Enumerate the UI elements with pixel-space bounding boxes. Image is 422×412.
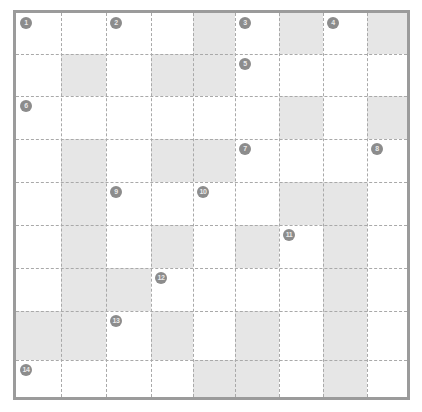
grid-cell[interactable] <box>235 311 279 360</box>
grid-cell[interactable] <box>16 225 61 268</box>
grid-cell[interactable] <box>193 54 235 96</box>
grid-cell[interactable] <box>367 268 407 311</box>
grid-cell[interactable] <box>279 268 323 311</box>
grid-cell[interactable] <box>61 139 106 182</box>
grid-marker-13[interactable]: 13 <box>110 315 122 327</box>
grid-cell[interactable] <box>16 54 61 96</box>
grid-marker-2[interactable]: 2 <box>110 17 122 29</box>
grid-cell[interactable] <box>151 96 193 139</box>
grid-marker-4[interactable]: 4 <box>327 17 339 29</box>
grid-marker-7[interactable]: 7 <box>239 143 251 155</box>
grid-marker-12[interactable]: 12 <box>155 272 167 284</box>
grid-cell[interactable] <box>193 13 235 54</box>
grid-cell[interactable] <box>279 360 323 397</box>
grid-cell[interactable] <box>106 360 151 397</box>
grid-cell[interactable] <box>61 360 106 397</box>
grid-cell[interactable] <box>279 13 323 54</box>
grid-cell[interactable] <box>367 360 407 397</box>
grid-cell[interactable] <box>193 139 235 182</box>
grid-cell[interactable] <box>235 225 279 268</box>
grid-cell[interactable] <box>61 54 106 96</box>
grid-cell[interactable] <box>193 96 235 139</box>
grid-marker-5[interactable]: 5 <box>239 58 251 70</box>
grid-cell[interactable] <box>61 182 106 225</box>
grid-cell[interactable] <box>323 268 367 311</box>
grid-cell[interactable] <box>151 54 193 96</box>
grid-cell[interactable] <box>193 360 235 397</box>
grid-marker-1[interactable]: 1 <box>20 17 32 29</box>
grid-marker-11[interactable]: 11 <box>283 229 295 241</box>
grid-cell[interactable] <box>193 311 235 360</box>
grid-cell[interactable] <box>151 182 193 225</box>
grid-cell[interactable] <box>323 139 367 182</box>
grid-marker-6[interactable]: 6 <box>20 100 32 112</box>
grid-cell[interactable] <box>279 96 323 139</box>
grid-cell[interactable] <box>151 13 193 54</box>
grid-marker-10[interactable]: 10 <box>197 186 209 198</box>
grid-cell[interactable] <box>106 96 151 139</box>
grid-cell[interactable] <box>235 96 279 139</box>
grid-cell[interactable] <box>323 182 367 225</box>
grid-cell[interactable] <box>151 311 193 360</box>
grid-cell[interactable] <box>106 139 151 182</box>
grid-cell[interactable] <box>16 139 61 182</box>
grid-cell[interactable] <box>106 54 151 96</box>
grid-cell[interactable] <box>16 268 61 311</box>
grid-cell[interactable] <box>106 268 151 311</box>
grid-cell[interactable] <box>235 268 279 311</box>
grid-cell[interactable] <box>367 96 407 139</box>
grid-marker-14[interactable]: 14 <box>20 364 32 376</box>
grid-cell[interactable] <box>279 182 323 225</box>
grid-cell[interactable] <box>279 54 323 96</box>
grid-inner: 1234567891011121314 <box>16 13 407 397</box>
grid-cell[interactable] <box>61 268 106 311</box>
grid-cell[interactable] <box>106 225 151 268</box>
grid-cell[interactable] <box>367 54 407 96</box>
grid-cell[interactable] <box>61 311 106 360</box>
grid-cell[interactable] <box>367 182 407 225</box>
grid-cell[interactable] <box>323 96 367 139</box>
grid-cell[interactable] <box>323 225 367 268</box>
grid-cell[interactable] <box>323 54 367 96</box>
grid-marker-9[interactable]: 9 <box>110 186 122 198</box>
grid-cell[interactable] <box>367 13 407 54</box>
grid-cell[interactable] <box>61 13 106 54</box>
grid-cell[interactable] <box>16 182 61 225</box>
grid-cell[interactable] <box>323 360 367 397</box>
grid-cell[interactable] <box>151 225 193 268</box>
grid-cell[interactable] <box>279 311 323 360</box>
grid-cell[interactable] <box>323 311 367 360</box>
grid-cell[interactable] <box>151 139 193 182</box>
grid-panel: 1234567891011121314 <box>13 10 410 400</box>
grid-cell[interactable] <box>61 96 106 139</box>
grid-cell[interactable] <box>61 225 106 268</box>
grid-marker-3[interactable]: 3 <box>239 17 251 29</box>
grid-cell[interactable] <box>367 311 407 360</box>
grid-cell[interactable] <box>367 225 407 268</box>
grid-cell[interactable] <box>235 360 279 397</box>
grid-cell[interactable] <box>193 225 235 268</box>
grid-cell[interactable] <box>16 311 61 360</box>
grid-cell[interactable] <box>235 182 279 225</box>
grid-marker-8[interactable]: 8 <box>371 143 383 155</box>
grid-cell[interactable] <box>151 360 193 397</box>
grid-cell[interactable] <box>193 268 235 311</box>
grid-cell[interactable] <box>279 139 323 182</box>
